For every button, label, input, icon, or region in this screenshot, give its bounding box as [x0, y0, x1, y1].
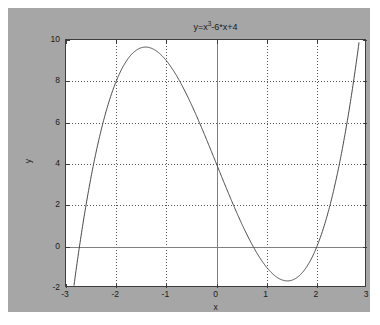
plot-axes-area	[65, 39, 366, 287]
chart-title: y=x3-6*x+4	[65, 22, 366, 33]
figure-canvas: y=x3-6*x+4 -3-2-10123 -20246810 x y	[8, 8, 370, 312]
x-tick-label: 1	[263, 289, 268, 299]
figure-root: y=x3-6*x+4 -3-2-10123 -20246810 x y	[0, 0, 380, 325]
x-tick-label: 0	[213, 289, 218, 299]
y-tick-label: 8	[60, 75, 65, 85]
y-tick-label: 6	[60, 117, 65, 127]
x-tick-label: 2	[313, 289, 318, 299]
x-tick-label: -1	[162, 289, 170, 299]
y-tick-label: 10	[60, 34, 69, 44]
chart-title-tail: -6*x+4	[211, 22, 237, 32]
grid-horizontal-group	[66, 82, 367, 206]
x-tick-label: 3	[364, 289, 369, 299]
y-tick-label: 2	[60, 199, 65, 209]
y-tick-label: 0	[60, 241, 65, 251]
y-tick-label: 4	[60, 158, 65, 168]
chart-title-base: y=x	[193, 22, 207, 32]
y-tick-label: -2	[60, 282, 68, 292]
plot-svg	[66, 40, 367, 288]
x-axis-label: x	[65, 302, 366, 312]
y-axis-label: y	[23, 159, 33, 163]
x-tick-label: -2	[111, 289, 119, 299]
